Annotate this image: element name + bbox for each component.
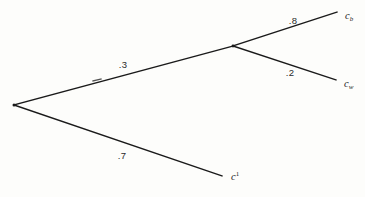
edge-branch-to-cw bbox=[233, 46, 336, 80]
probability-label-cb-branch: .8 bbox=[289, 15, 297, 26]
tree-canvas: .3 .7 .8 .2 cb cw c1 bbox=[0, 0, 365, 197]
probability-label-cw-branch: .2 bbox=[286, 67, 294, 78]
edge-root-to-branch bbox=[14, 46, 233, 105]
tree-edges bbox=[14, 12, 337, 176]
terminal-label-cb: cb bbox=[345, 10, 354, 23]
terminal-labels: cb cw c1 bbox=[231, 10, 354, 182]
terminal-label-c1: c1 bbox=[231, 170, 240, 182]
terminal-c1-superscript: 1 bbox=[236, 170, 240, 178]
branch-node bbox=[232, 45, 235, 48]
probability-label-upper-branch: .3 bbox=[119, 59, 127, 70]
terminal-cb-subscript: b bbox=[350, 15, 354, 23]
probability-tree-figure: .3 .7 .8 .2 cb cw c1 bbox=[0, 0, 365, 197]
branch-tick-marks bbox=[93, 79, 101, 81]
edge-root-to-c1 bbox=[14, 105, 222, 176]
root-node bbox=[13, 104, 16, 107]
terminal-cw-subscript: w bbox=[349, 83, 354, 91]
branch-tick-icon bbox=[93, 79, 101, 81]
terminal-label-cw: cw bbox=[344, 78, 354, 91]
probability-labels: .3 .7 .8 .2 bbox=[118, 15, 297, 161]
probability-label-lower-branch: .7 bbox=[118, 150, 126, 161]
edge-branch-to-cb bbox=[233, 12, 337, 46]
